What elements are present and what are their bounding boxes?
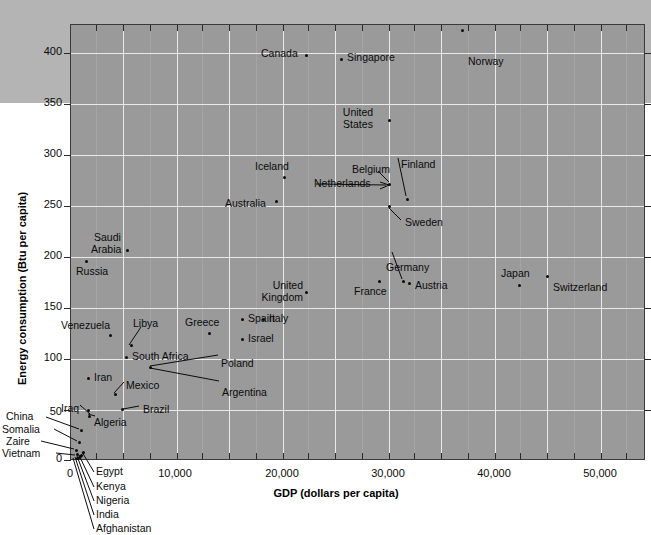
xtick-top	[150, 25, 151, 31]
data-point-south-africa	[125, 356, 128, 359]
data-point-singapore	[340, 58, 343, 61]
gridline-minor	[202, 25, 203, 459]
point-label-uk-line2: Kingdom	[247, 292, 303, 304]
xtick-top	[335, 25, 336, 31]
point-label-belgium: Belgium	[352, 164, 390, 175]
xtick-bottom	[362, 453, 363, 459]
data-point-brazil	[121, 408, 124, 411]
data-point-norway	[461, 29, 464, 32]
point-label-iceland: Iceland	[255, 161, 289, 172]
xtick-bottom	[229, 453, 230, 459]
xtick-top	[362, 25, 363, 31]
xtick-bottom	[283, 453, 284, 459]
xtick-top	[441, 25, 442, 31]
point-label-poland: Poland	[221, 358, 254, 369]
point-label-france: France	[354, 286, 387, 297]
xtick-top	[96, 25, 97, 31]
point-label-iran: Iran	[94, 372, 112, 383]
gridline-major	[71, 257, 644, 258]
xtick-top	[256, 25, 257, 31]
data-point-greece	[208, 332, 211, 335]
point-label-united-kingdom: United Kingdom	[247, 280, 303, 303]
xtick-bottom	[495, 453, 496, 459]
gridline-major	[123, 25, 124, 459]
point-label-germany: Germany	[386, 262, 429, 273]
data-point-france	[378, 280, 381, 283]
xtick-label-40000: 40,000	[464, 468, 524, 479]
point-label-norway: Norway	[468, 56, 504, 67]
ytick-label-250: 250	[22, 199, 62, 210]
point-label-saudi-l1: Saudi	[94, 232, 121, 243]
gridline-major	[495, 25, 496, 459]
point-label-italy: Italy	[269, 313, 288, 324]
data-point-poland-argentina	[149, 366, 152, 369]
xtick-bottom	[335, 453, 336, 459]
point-label-russia: Russia	[76, 266, 108, 277]
data-point-saudi-arabia	[126, 249, 129, 252]
xtick-top	[389, 25, 390, 31]
point-label-canada: Canada	[261, 48, 298, 59]
data-point-spain	[241, 318, 244, 321]
point-label-uk-line1: United	[247, 280, 303, 292]
gridline-minor	[150, 25, 151, 459]
data-point-russia	[85, 260, 88, 263]
xtick-top	[626, 25, 627, 31]
xtick-bottom	[414, 453, 415, 459]
xtick-top	[202, 25, 203, 31]
ytick-left	[64, 257, 71, 258]
ytick-left	[64, 155, 71, 156]
gridline-minor	[520, 25, 521, 459]
xtick-top	[547, 25, 548, 31]
xtick-top	[308, 25, 309, 31]
ytick-right	[644, 257, 651, 258]
gridline-major	[71, 104, 644, 105]
outside-label-india: India	[96, 509, 119, 520]
outside-label-egypt: Egypt	[96, 466, 123, 477]
xtick-label-0: 0	[55, 468, 85, 479]
xtick-bottom	[574, 453, 575, 459]
xtick-top	[468, 25, 469, 31]
xtick-bottom	[468, 453, 469, 459]
xtick-bottom	[123, 453, 124, 459]
data-point-germany	[402, 280, 405, 283]
data-point-switzerland	[546, 275, 549, 278]
data-point-sweden	[388, 205, 391, 208]
point-label-netherlands: Netherlands	[314, 178, 371, 189]
gridline-major	[177, 25, 178, 459]
data-point-afghanistan	[76, 457, 79, 460]
ytick-left	[64, 308, 71, 309]
xtick-bottom	[441, 453, 442, 459]
xtick-bottom	[601, 453, 602, 459]
ytick-right	[644, 53, 651, 54]
data-point-israel	[241, 338, 244, 341]
point-label-japan: Japan	[501, 268, 530, 279]
data-point-canada	[305, 54, 308, 57]
gridline-major	[283, 25, 284, 459]
data-point-iran	[87, 377, 90, 380]
ytick-left	[64, 104, 71, 105]
gridline-major	[547, 25, 548, 459]
xtick-top	[123, 25, 124, 31]
ytick-label-200: 200	[22, 250, 62, 261]
data-point-zaire	[75, 449, 78, 452]
point-label-greece: Greece	[185, 317, 219, 328]
point-label-south-africa: South Africa	[132, 351, 189, 362]
point-label-israel: Israel	[248, 333, 274, 344]
xtick-bottom	[150, 453, 151, 459]
data-point-algeria	[88, 415, 91, 418]
xtick-bottom	[202, 453, 203, 459]
ytick-label-0: 0	[22, 453, 62, 464]
point-label-austria: Austria	[415, 280, 448, 291]
xtick-label-30000: 30,000	[358, 468, 418, 479]
point-label-mexico: Mexico	[126, 380, 159, 391]
data-point-netherlands-belgium	[388, 183, 391, 186]
point-label-brazil: Brazil	[143, 404, 169, 415]
ytick-right	[644, 104, 651, 105]
xtick-top	[229, 25, 230, 31]
xtick-bottom	[96, 453, 97, 459]
gridline-minor	[626, 25, 627, 459]
xtick-bottom	[626, 453, 627, 459]
point-label-united-states: United States	[330, 107, 386, 130]
data-point-venezuela	[109, 334, 112, 337]
data-point-china	[80, 429, 83, 432]
